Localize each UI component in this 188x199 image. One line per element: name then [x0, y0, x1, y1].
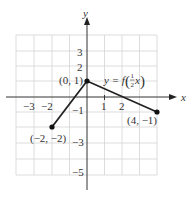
y-tick-m1: −1 [72, 104, 84, 116]
x-tick-1: 1 [101, 100, 107, 112]
point-a [84, 78, 89, 83]
frac-den: 2 [131, 81, 135, 89]
y-tick-m3: −3 [72, 136, 84, 148]
paren-open: ( [125, 73, 130, 90]
frac-num: 1 [131, 72, 135, 80]
y-tick-m5: −5 [72, 166, 84, 178]
function-label: y = f ( 1 2 x ) [103, 72, 145, 90]
x-tick-m3: −3 [23, 100, 35, 112]
x-tick-m2: −2 [41, 100, 53, 112]
function-graph: x y −3 −2 1 2 3 2 −1 −3 −5 (0, 1) (4, −1… [0, 0, 188, 199]
x-tick-2: 2 [119, 100, 125, 112]
x-axis-label: x [180, 91, 186, 103]
point-a-label: (0, 1) [59, 74, 83, 87]
y-tick-2: 2 [77, 61, 83, 73]
function-prefix: y = f [103, 74, 127, 86]
y-axis-label: y [82, 7, 88, 19]
paren-close: ) [140, 73, 145, 90]
point-b-label: (4, −1) [127, 114, 157, 127]
point-c [49, 124, 54, 129]
y-tick-3: 3 [77, 46, 83, 58]
point-c-label: (−2, −2) [30, 132, 67, 145]
x-axis-arrow-icon [169, 94, 177, 100]
